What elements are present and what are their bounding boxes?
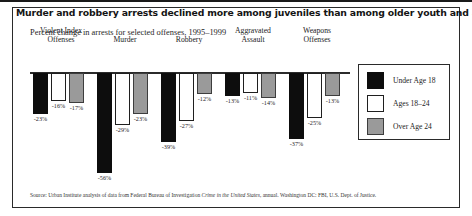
bar-fill — [307, 73, 322, 118]
bar-fill — [243, 73, 258, 93]
legend-swatch-under-18 — [367, 72, 384, 89]
bars: -23%-16%-17% — [32, 73, 90, 180]
chart-plot-area: Violent IndexOffenses-23%-16%-17%Murder-… — [30, 54, 350, 180]
bars: -56%-29%-23% — [96, 73, 154, 180]
source-note: Source: Urban Institute analysis of data… — [30, 192, 376, 198]
bar-fill — [69, 73, 84, 103]
bar-fill — [97, 73, 112, 173]
group-label-weapons-offenses: WeaponsOffenses — [288, 27, 346, 44]
group-label-violent-index-offenses: Violent IndexOffenses — [32, 27, 90, 44]
bars: -37%-25%-13% — [288, 73, 346, 180]
bar-fill — [325, 73, 340, 96]
bar-fill — [197, 73, 212, 94]
legend-item-over-24: Over Age 24 — [367, 118, 432, 135]
bars: -13%-11%-14% — [224, 73, 282, 180]
bar-fill — [289, 73, 304, 139]
bar-fill — [261, 73, 276, 98]
bar-fill — [51, 73, 66, 101]
bar-value-label: -56% — [98, 174, 111, 181]
bar-group: Murder-56%-29%-23% — [96, 54, 154, 180]
figure-title: Murder and robbery arrests declined more… — [16, 7, 436, 18]
bar-value-label: -14% — [262, 99, 275, 106]
bar-fill — [115, 73, 130, 125]
figure-root: Murder and robbery arrests declined more… — [0, 0, 472, 216]
bar-value-label: -23% — [134, 115, 147, 122]
bar-value-label: -23% — [34, 115, 47, 122]
bar-fill — [179, 73, 194, 121]
legend-label-under-18: Under Age 18 — [393, 76, 436, 85]
bar-value-label: -39% — [162, 143, 175, 150]
bar-group: WeaponsOffenses-37%-25%-13% — [288, 54, 346, 180]
legend-label-over-24: Over Age 24 — [393, 122, 432, 131]
bar-value-label: -13% — [326, 97, 339, 104]
bar-value-label: -16% — [52, 102, 65, 109]
bar-group: Robbery-39%-27%-12% — [160, 54, 218, 180]
legend-label-18-24: Ages 18–24 — [393, 99, 430, 108]
chart-legend: Under Age 18 Ages 18–24 Over Age 24 — [358, 64, 450, 140]
group-label-murder: Murder — [96, 36, 154, 45]
legend-swatch-over-24 — [367, 118, 384, 135]
bar-group: AggravatedAssault-13%-11%-14% — [224, 54, 282, 180]
bar-value-label: -37% — [290, 140, 303, 147]
legend-item-under-18: Under Age 18 — [367, 72, 436, 89]
bar-group: Violent IndexOffenses-23%-16%-17% — [32, 54, 90, 180]
legend-item-18-24: Ages 18–24 — [367, 95, 430, 112]
bar-value-label: -25% — [308, 119, 321, 126]
bar-fill — [161, 73, 176, 142]
bars: -39%-27%-12% — [160, 73, 218, 180]
legend-swatch-18-24 — [367, 95, 384, 112]
group-label-aggravated-assault: AggravatedAssault — [224, 27, 282, 44]
bar-value-label: -13% — [226, 97, 239, 104]
bar-value-label: -17% — [70, 104, 83, 111]
source-suffix: , annual. Washington DC: FBI, U.S. Dept.… — [260, 192, 376, 198]
bar-value-label: -11% — [244, 94, 257, 101]
bar-value-label: -27% — [180, 122, 193, 129]
group-label-robbery: Robbery — [160, 36, 218, 45]
bar-value-label: -12% — [198, 95, 211, 102]
bar-fill — [225, 73, 240, 96]
bar-value-label: -29% — [116, 126, 129, 133]
source-prefix: Source: Urban Institute analysis of data… — [30, 192, 202, 198]
top-rule — [0, 0, 472, 2]
bar-fill — [33, 73, 48, 114]
source-title-italic: Crime in the United States — [202, 192, 260, 198]
bar-fill — [133, 73, 148, 114]
